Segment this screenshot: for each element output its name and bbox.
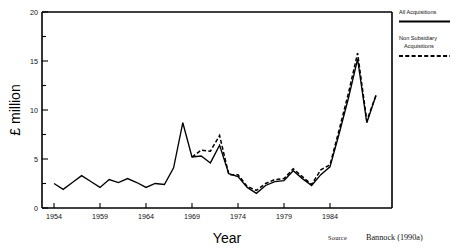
source-note: Source Bannock (1990a) (328, 233, 423, 242)
chart-legend: All Acquisitions Non Subsidiary Acquisit… (399, 9, 450, 56)
y-tick-label-15: 15 (30, 57, 38, 66)
plot-frame (42, 12, 392, 208)
legend-label-all-acquisitions: All Acquisitions (399, 9, 437, 15)
x-tick-label-1954: 1954 (46, 212, 62, 221)
series-non-subsidiary-acquisitions (192, 53, 376, 190)
x-tick-label-1969: 1969 (184, 212, 200, 221)
series-group (54, 53, 376, 193)
legend-label-non-subsidiary-line1: Non Subsidiary (399, 35, 437, 41)
y-tick-label-0: 0 (34, 204, 38, 213)
y-axis-ticks (42, 12, 48, 208)
chart-canvas: 0 5 10 15 20 1954 1959 1964 1969 1974 19… (0, 0, 453, 252)
legend-label-non-subsidiary-line2: Acquisitions (404, 43, 434, 49)
y-tick-label-10: 10 (30, 106, 38, 115)
series-all-acquisitions (54, 59, 376, 193)
x-tick-label-1974: 1974 (230, 212, 246, 221)
x-tick-label-1984: 1984 (322, 212, 338, 221)
x-tick-label-1959: 1959 (92, 212, 108, 221)
y-axis-title: £ million (7, 84, 23, 135)
source-prefix: Source (328, 234, 347, 241)
y-tick-label-20: 20 (30, 8, 38, 17)
source-text: Bannock (1990a) (366, 233, 423, 242)
x-axis-title: Year (213, 230, 242, 246)
y-tick-label-5: 5 (34, 155, 38, 164)
x-axis-tick-labels: 1954 1959 1964 1969 1974 1979 1984 (46, 212, 338, 221)
x-tick-label-1964: 1964 (138, 212, 154, 221)
x-tick-label-1979: 1979 (276, 212, 292, 221)
chart-figure: 0 5 10 15 20 1954 1959 1964 1969 1974 19… (0, 0, 453, 252)
y-axis-tick-labels: 0 5 10 15 20 (30, 8, 38, 213)
